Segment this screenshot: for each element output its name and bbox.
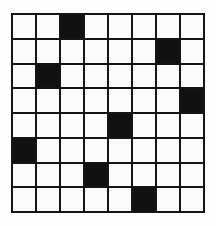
grid-cell[interactable] [13,65,37,90]
grid-cell[interactable] [133,188,157,213]
grid-cell[interactable] [85,40,109,65]
grid-cell[interactable] [181,164,205,189]
grid-cell[interactable] [157,139,181,164]
grid-cell[interactable] [85,139,109,164]
grid-cell[interactable] [37,188,61,213]
grid-cell[interactable] [37,15,61,40]
grid-cell[interactable] [133,89,157,114]
grid-cell[interactable] [61,40,85,65]
grid-cell[interactable] [181,89,205,114]
grid-cell[interactable] [37,139,61,164]
grid-cell[interactable] [157,89,181,114]
grid-cell[interactable] [181,15,205,40]
grid-cell[interactable] [85,164,109,189]
grid-cell[interactable] [13,114,37,139]
grid-cell[interactable] [133,40,157,65]
grid-cell[interactable] [37,89,61,114]
grid-cell[interactable] [37,164,61,189]
grid-cell[interactable] [13,164,37,189]
grid-cell[interactable] [61,15,85,40]
grid-cell[interactable] [109,139,133,164]
grid-cell[interactable] [109,15,133,40]
grid-cell[interactable] [157,65,181,90]
grid-cell[interactable] [157,164,181,189]
grid-cell[interactable] [157,15,181,40]
grid-table [11,13,205,213]
grid-cell[interactable] [61,65,85,90]
grid-cell[interactable] [181,139,205,164]
grid-cell[interactable] [85,114,109,139]
grid-cell[interactable] [109,188,133,213]
grid-cell[interactable] [133,15,157,40]
grid-cell[interactable] [61,114,85,139]
grid-cell[interactable] [37,40,61,65]
grid-cell[interactable] [181,65,205,90]
grid-cell[interactable] [85,89,109,114]
grid-cell[interactable] [85,15,109,40]
grid-cell[interactable] [109,40,133,65]
grid-figure [11,13,205,213]
grid-cell[interactable] [181,114,205,139]
grid-cell[interactable] [157,188,181,213]
grid-cell[interactable] [61,164,85,189]
grid-cell[interactable] [13,139,37,164]
grid-cell[interactable] [61,139,85,164]
grid-cell[interactable] [37,65,61,90]
grid-cell[interactable] [13,188,37,213]
grid-cell[interactable] [109,164,133,189]
grid-cell[interactable] [133,65,157,90]
grid-cell[interactable] [181,40,205,65]
grid-cell[interactable] [181,188,205,213]
grid-cell[interactable] [133,164,157,189]
grid-cell[interactable] [157,114,181,139]
grid-cell[interactable] [133,114,157,139]
grid-cell[interactable] [37,114,61,139]
grid-cell[interactable] [61,188,85,213]
grid-cell[interactable] [109,89,133,114]
grid-cell[interactable] [157,40,181,65]
grid-cell[interactable] [85,188,109,213]
grid-cell[interactable] [13,40,37,65]
grid-cell[interactable] [85,65,109,90]
grid-cell[interactable] [13,89,37,114]
grid-cell[interactable] [109,65,133,90]
grid-cell[interactable] [13,15,37,40]
grid-cell[interactable] [61,89,85,114]
grid-cell[interactable] [133,139,157,164]
grid-cell[interactable] [109,114,133,139]
